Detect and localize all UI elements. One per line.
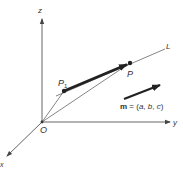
y-axis-label: y [172,118,178,127]
vector-m-label: m = (a, b, c) [120,102,164,111]
p1-label: P1 [58,78,68,89]
position-line-p [42,63,130,122]
x-axis-label: x [0,161,4,168]
vector-p1-p [64,65,127,92]
point-origin [41,121,44,124]
point-p1 [62,89,66,93]
direction-vector-m [124,85,160,99]
vector-line-diagram: z y x L P1 P O m = (a, b, c) [0,0,183,171]
p-label: P [127,69,133,79]
point-p [128,61,132,65]
x-axis [7,122,42,156]
z-axis-label: z [37,6,42,15]
line-l-label: L [166,42,170,51]
origin-label: O [40,125,47,135]
position-line-p1 [42,91,64,122]
